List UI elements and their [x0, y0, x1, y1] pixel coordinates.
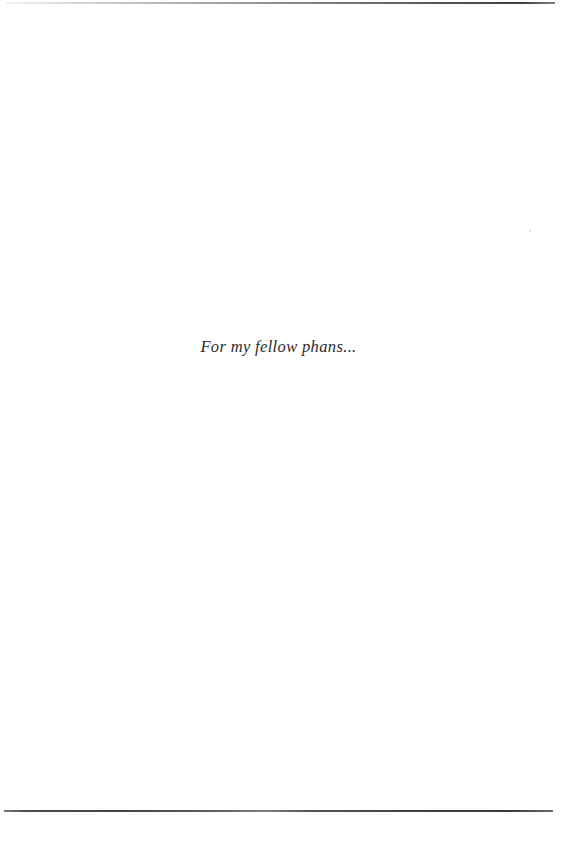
dedication-block: For my fellow phans... — [0, 337, 561, 357]
bottom-horizontal-rule — [4, 810, 553, 812]
top-horizontal-rule — [6, 2, 555, 4]
dedication-page: For my fellow phans... — [0, 0, 561, 866]
dedication-text: For my fellow phans... — [200, 337, 356, 357]
scan-speck-artifact — [529, 229, 531, 232]
